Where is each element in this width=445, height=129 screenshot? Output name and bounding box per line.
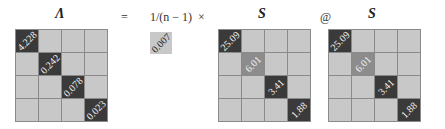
matrix-cell <box>265 99 287 121</box>
times-sign: × <box>198 10 205 25</box>
matrix-cell <box>62 53 84 75</box>
cell-value: 6.01 <box>353 54 373 74</box>
s-title-2: S <box>360 6 384 22</box>
cell-value: 1.88 <box>399 100 419 120</box>
scalar-value: 0.007 <box>149 31 173 55</box>
matrix-cell <box>62 99 84 121</box>
matrix-cell <box>398 30 420 52</box>
matrix-cell <box>85 53 107 75</box>
matrix-cell: 25.09 <box>219 30 241 52</box>
cell-value: 25.09 <box>328 29 352 53</box>
lambda-title: Λ <box>48 6 72 22</box>
matrix-cell <box>62 30 84 52</box>
s-matrix-1: 25.09 6.01 3.41 1.88 <box>218 29 311 122</box>
matrix-cell <box>242 99 264 121</box>
matrix-cell <box>85 76 107 98</box>
matrix-cell: 3.41 <box>265 76 287 98</box>
matrix-cell: 1.88 <box>398 99 420 121</box>
matrix-cell: 25.09 <box>329 30 351 52</box>
equals-sign: = <box>121 10 128 25</box>
matrix-cell <box>375 99 397 121</box>
cell-value: 0.242 <box>38 52 62 76</box>
matrix-cell <box>242 76 264 98</box>
matrix-cell <box>288 76 310 98</box>
cell-value: 0.078 <box>61 75 85 99</box>
s-title-1: S <box>250 6 274 22</box>
cell-value: 25.09 <box>218 29 242 53</box>
matrix-cell <box>329 99 351 121</box>
matrix-cell <box>288 30 310 52</box>
cell-value: 1.88 <box>289 100 309 120</box>
cell-value: 3.41 <box>266 77 286 97</box>
cell-value: 3.41 <box>376 77 396 97</box>
matrix-cell <box>16 53 38 75</box>
matrix-cell <box>375 53 397 75</box>
matrix-cell <box>352 99 374 121</box>
matrix-cell <box>39 99 61 121</box>
matrix-cell <box>219 76 241 98</box>
matrix-cell <box>16 76 38 98</box>
matrix-cell <box>39 30 61 52</box>
matrix-cell <box>265 53 287 75</box>
scalar-label: 1/(n − 1) <box>150 10 192 25</box>
matrix-cell <box>352 76 374 98</box>
matmul-sign: @ <box>320 10 331 25</box>
matrix-cell <box>219 99 241 121</box>
matrix-cell: 6.01 <box>242 53 264 75</box>
s-matrix-2: 25.09 6.01 3.41 1.88 <box>328 29 421 122</box>
scalar-cell: 0.007 <box>150 32 172 54</box>
matrix-cell: 1.88 <box>288 99 310 121</box>
lambda-matrix: 4.228 0.242 0.078 0.023 <box>15 29 108 122</box>
matrix-cell <box>219 53 241 75</box>
matrix-cell <box>398 53 420 75</box>
matrix-cell: 4.228 <box>16 30 38 52</box>
matrix-cell: 6.01 <box>352 53 374 75</box>
matrix-cell <box>352 30 374 52</box>
cell-value: 4.228 <box>15 29 39 53</box>
matrix-cell <box>265 30 287 52</box>
matrix-cell <box>398 76 420 98</box>
matrix-cell: 0.242 <box>39 53 61 75</box>
matrix-cell <box>242 30 264 52</box>
cell-value: 0.023 <box>84 98 108 122</box>
matrix-cell <box>288 53 310 75</box>
matrix-cell <box>329 76 351 98</box>
matrix-cell: 0.023 <box>85 99 107 121</box>
matrix-cell: 0.078 <box>62 76 84 98</box>
cell-value: 6.01 <box>243 54 263 74</box>
matrix-cell <box>39 76 61 98</box>
matrix-cell <box>16 99 38 121</box>
matrix-cell <box>85 30 107 52</box>
matrix-cell <box>329 53 351 75</box>
matrix-cell <box>375 30 397 52</box>
matrix-cell: 3.41 <box>375 76 397 98</box>
